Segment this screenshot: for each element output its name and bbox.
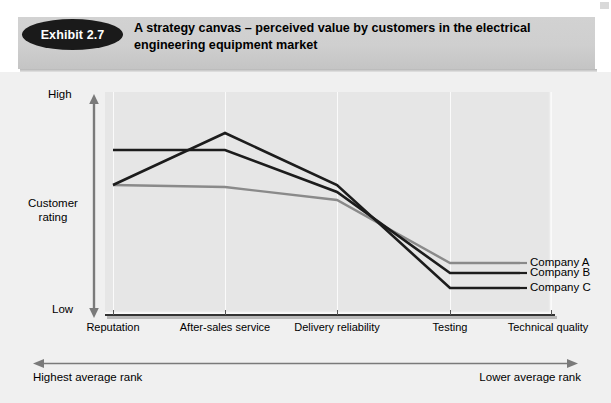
x-tick-3: [337, 310, 338, 315]
rank-left-label: Highest average rank: [33, 371, 142, 383]
x-axis-line: [105, 314, 555, 316]
y-axis-title-text: Customer rating: [28, 197, 78, 223]
x-label-after-sales: After-sales service: [175, 321, 275, 334]
plot-area: [105, 92, 552, 314]
gridline-1: [113, 92, 114, 314]
legend-label-company-b: Company B: [530, 266, 590, 278]
legend-label-company-c: Company C: [530, 281, 591, 293]
rank-right-label: Lower average rank: [479, 371, 581, 383]
rank-direction-arrow: [33, 358, 578, 369]
gridline-4: [450, 92, 451, 314]
y-axis-low-label: Low: [52, 303, 73, 315]
exhibit-number-badge: Exhibit 2.7: [22, 19, 123, 50]
corner-artifact: [600, 2, 609, 9]
y-axis-high-label: High: [48, 88, 72, 100]
x-label-reputation: Reputation: [63, 321, 163, 334]
x-label-testing: Testing: [400, 321, 500, 334]
x-tick-1: [113, 310, 114, 315]
gridline-2: [225, 92, 226, 314]
exhibit-figure: Exhibit 2.7 A strategy canvas – perceive…: [0, 0, 611, 403]
x-tick-2: [225, 310, 226, 315]
gridline-3: [337, 92, 338, 314]
y-axis-title: Customer rating: [16, 196, 90, 224]
x-tick-4: [450, 310, 451, 315]
exhibit-title: A strategy canvas – perceived value by c…: [134, 20, 574, 53]
x-tick-5: [551, 310, 552, 315]
x-axis-shadow: [107, 316, 557, 319]
x-label-delivery: Delivery reliability: [287, 321, 387, 334]
x-label-technical-quality: Technical quality: [498, 321, 598, 334]
